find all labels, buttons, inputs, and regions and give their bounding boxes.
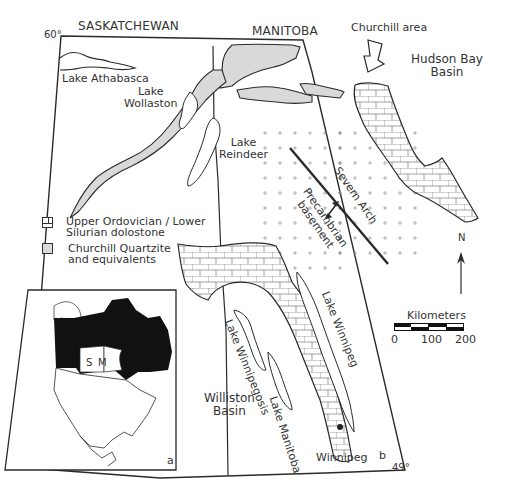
legend-swatch-quartzite (42, 243, 53, 254)
label-lake-reindeer-line2: Reindeer (219, 149, 268, 161)
label-lake-wollaston: Lake Wollaston (124, 86, 178, 110)
label-latitude-49: 49° (392, 462, 410, 474)
panel-label-b: b (379, 450, 386, 462)
scale-tick-100: 100 (421, 334, 442, 346)
lake-athabasca-outline (60, 52, 135, 70)
label-hudson-bay-basin: Hudson Bay Basin (411, 53, 483, 79)
legend-label-quartzite: Churchill Quartzite and equivalents (68, 243, 171, 265)
legend-label-dolostone: Upper Ordovician / Lower Silurian dolost… (66, 216, 206, 238)
legend-dolostone-line2: Silurian dolostone (66, 227, 206, 238)
north-arrow-label: N (458, 232, 465, 244)
label-saskatchewan: SASKATCHEWAN (78, 20, 179, 32)
label-hudson-bay-line2: Basin (411, 66, 483, 79)
label-lake-reindeer: Lake Reindeer (219, 137, 268, 161)
lake-reindeer-outline (188, 118, 220, 186)
north-arrow-icon (457, 252, 465, 294)
label-williston-line2: Basin (204, 405, 255, 418)
inset-label-saskatchewan: S (86, 357, 92, 369)
churchill-area-arrow (364, 40, 384, 72)
label-churchill-area: Churchill area (351, 22, 427, 34)
scale-tick-200: 200 (455, 334, 476, 346)
inset-label-manitoba: M (98, 357, 107, 369)
churchill-quartzite-band-3 (237, 87, 312, 104)
legend-quartzite-line2: and equivalents (68, 254, 171, 265)
legend-swatch-dolostone (42, 217, 53, 228)
panel-label-a: a (167, 455, 174, 467)
label-manitoba: MANITOBA (252, 25, 318, 37)
churchill-quartzite-band-1 (220, 44, 300, 88)
label-williston-basin: Williston Basin (204, 392, 255, 418)
label-winnipeg: Winnipeg (316, 452, 367, 464)
hudson-bay-dolostone (354, 83, 478, 222)
label-lake-athabasca: Lake Athabasca (62, 73, 149, 85)
winnipeg-city-dot (337, 424, 343, 430)
scale-bar-title: Kilometers (407, 310, 466, 322)
scale-bar (394, 323, 464, 331)
label-latitude-60: 60° (44, 29, 62, 41)
scale-tick-0: 0 (391, 334, 398, 346)
label-lake-wollaston-line2: Wollaston (124, 98, 178, 110)
lake-wollaston-outline (179, 92, 197, 129)
